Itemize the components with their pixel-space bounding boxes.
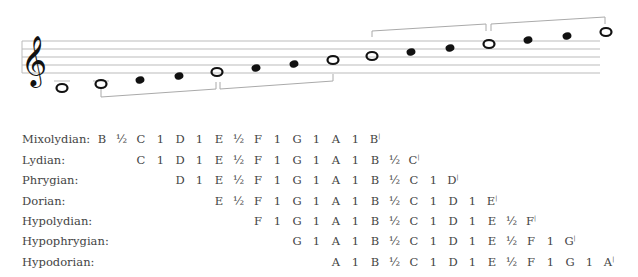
interval-step: 1 [347, 214, 365, 228]
mode-name: Dorian: [22, 194, 65, 208]
mode-row: Hypolydian:F1G1A1B½C1D1E½F| [0, 214, 638, 234]
note-name: D [444, 194, 462, 208]
mode-row: Mixolydian:B½C1D1E½F1G1A1B| [0, 132, 638, 152]
note-name: F [249, 173, 267, 187]
interval-step: ½ [386, 214, 404, 228]
interval-step: ½ [386, 255, 404, 269]
note-name: B [366, 255, 384, 269]
note-name: F [249, 214, 267, 228]
note-name: B [366, 234, 384, 248]
interval-step: 1 [269, 214, 287, 228]
note-name: A [327, 214, 345, 228]
note-name: C| [405, 153, 423, 167]
interval-step: 1 [425, 194, 443, 208]
note-name: C [405, 255, 423, 269]
note-name: B [366, 194, 384, 208]
note-name: G [288, 214, 306, 228]
interval-step: 1 [347, 234, 365, 248]
interval-step: 1 [191, 132, 209, 146]
note-name: C [132, 132, 150, 146]
interval-step: ½ [503, 255, 521, 269]
interval-step: ½ [503, 214, 521, 228]
interval-step: 1 [152, 153, 170, 167]
mode-row: Dorian:E½F1G1A1B½C1D1E| [0, 194, 638, 214]
note-name: F| [522, 214, 540, 228]
note-name: D [171, 132, 189, 146]
interval-step: 1 [425, 234, 443, 248]
interval-step: 1 [464, 214, 482, 228]
note-name: C [405, 214, 423, 228]
interval-step: 1 [308, 153, 326, 167]
note-name: A [327, 255, 345, 269]
interval-step: 1 [464, 234, 482, 248]
mode-name: Phrygian: [22, 173, 78, 187]
note-name: F [522, 234, 540, 248]
mode-name: Lydian: [22, 153, 65, 167]
note-name: C [132, 153, 150, 167]
interval-step: 1 [308, 194, 326, 208]
interval-step: 1 [308, 132, 326, 146]
interval-step: 1 [464, 255, 482, 269]
interval-step: 1 [308, 234, 326, 248]
note-name: D [171, 153, 189, 167]
interval-step: 1 [425, 255, 443, 269]
interval-step: 1 [269, 194, 287, 208]
note-name: E [210, 173, 228, 187]
mode-row: Lydian:C1D1E½F1G1A1B½C| [0, 153, 638, 173]
note-name: B| [366, 132, 384, 146]
mode-name: Hypolydian: [22, 214, 92, 228]
note-name: D [444, 234, 462, 248]
note-name: D [444, 214, 462, 228]
note-name: F [249, 132, 267, 146]
interval-step: ½ [230, 194, 248, 208]
interval-step: ½ [230, 132, 248, 146]
interval-step: 1 [269, 132, 287, 146]
note-name: G [288, 132, 306, 146]
interval-step: ½ [386, 194, 404, 208]
interval-step: 1 [347, 194, 365, 208]
note-name: E [210, 132, 228, 146]
note-name: G [288, 194, 306, 208]
interval-step: 1 [308, 173, 326, 187]
mode-row: Hypodorian:A1B½C1D1E½F1G1A| [0, 255, 638, 275]
mode-name: Mixolydian: [22, 132, 90, 146]
interval-step: 1 [581, 255, 599, 269]
interval-step: 1 [269, 173, 287, 187]
note-name: F [522, 255, 540, 269]
interval-step: 1 [308, 214, 326, 228]
note-name: E [210, 153, 228, 167]
interval-step: ½ [386, 173, 404, 187]
note-name: F [249, 153, 267, 167]
interval-step: 1 [191, 153, 209, 167]
interval-step: 1 [347, 153, 365, 167]
note-name: B [93, 132, 111, 146]
note-name: A [327, 132, 345, 146]
interval-step: 1 [191, 173, 209, 187]
note-name: A [327, 234, 345, 248]
note-name: B [366, 153, 384, 167]
note-name: E [483, 214, 501, 228]
note-name: E| [483, 194, 501, 208]
interval-step: 1 [542, 234, 560, 248]
note-name: C [405, 173, 423, 187]
note-name: B [366, 173, 384, 187]
interval-step: ½ [230, 173, 248, 187]
interval-step: 1 [464, 194, 482, 208]
note-name: G [288, 173, 306, 187]
interval-step: ½ [386, 234, 404, 248]
interval-step: 1 [425, 214, 443, 228]
note-name: C [405, 194, 423, 208]
note-name: C [405, 234, 423, 248]
note-name: D [444, 255, 462, 269]
interval-step: ½ [230, 153, 248, 167]
note-name: E [210, 194, 228, 208]
note-name: A [327, 153, 345, 167]
note-name: E [483, 234, 501, 248]
modes-table: Mixolydian:B½C1D1E½F1G1A1B|Lydian:C1D1E½… [0, 0, 638, 277]
interval-step: 1 [269, 153, 287, 167]
mode-row: Phrygian:D1E½F1G1A1B½C1D| [0, 173, 638, 193]
note-name: G [288, 153, 306, 167]
note-name: A| [600, 255, 618, 269]
interval-step: 1 [347, 173, 365, 187]
note-name: A [327, 173, 345, 187]
